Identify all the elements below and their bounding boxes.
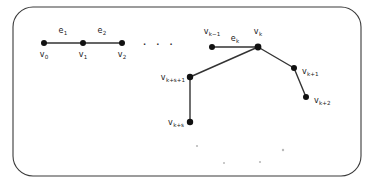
graph-node-vk+2 [303,94,309,100]
noise-dot-0 [196,145,198,147]
noise-dot-1 [223,162,225,164]
noise-dot-layer [196,145,284,164]
graph-node-vk [255,44,262,51]
graph-node-vk+1 [291,65,297,71]
figure-canvas: v0v1v2vk−1vkvk+1vk+2vk+s+1vk+se1e2ek· · … [0,0,374,188]
noise-dot-2 [259,161,261,163]
graph-node-v1 [80,40,86,46]
edge-label-e2: e2 [98,26,107,36]
graph-node-vk-1 [209,44,215,50]
node-label-vk+s+1: vk+s+1 [161,73,186,83]
edge-label-ek: ek [231,34,240,44]
ellipsis-label: · · · [142,37,175,52]
node-label-vk-1: vk−1 [204,27,221,37]
node-label-v2: v2 [118,50,127,60]
graph-edge-ek+1 [258,47,294,68]
node-label-vk+1: vk+1 [302,67,319,77]
node-label-vk: vk [254,27,263,37]
edge-label-e1: e1 [59,26,68,36]
graph-node-v2 [119,40,125,46]
node-label-v0: v0 [40,50,49,60]
node-label-vk+s: vk+s [168,118,184,128]
graph-node-v0 [41,40,47,46]
graph-edge-eks1 [190,47,258,77]
graph-node-vk+s+1 [187,74,193,80]
node-label-vk+2: vk+2 [314,96,331,106]
node-label-v1: v1 [79,50,88,60]
graph-diagram-svg: v0v1v2vk−1vkvk+1vk+2vk+s+1vk+se1e2ek· · … [0,0,374,188]
noise-dot-3 [282,149,284,151]
graph-node-vk+s [187,119,193,125]
